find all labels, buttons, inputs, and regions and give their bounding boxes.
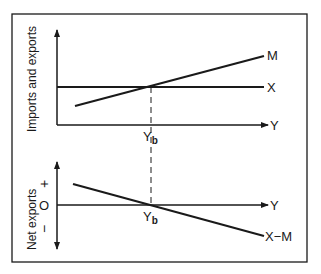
zero-label: O [39,198,49,213]
plus-sign-label: + [36,180,52,188]
imports-line-label: M [267,48,278,63]
bottom-y-axis-label: Net exports [25,189,39,250]
top-panel: Y Imports and exports X M Yb [25,26,279,146]
bottom-x-axis-label: Y [270,198,279,213]
minus-sign-label: − [36,225,52,233]
bottom-panel: Y Net exports + O − X−M Yb [25,162,292,250]
top-x-axis-label: Y [270,118,279,133]
imports-line [75,56,264,106]
top-y-axis-label: Imports and exports [25,26,39,132]
exports-line-label: X [267,80,276,95]
trade-balance-diagram: Y Imports and exports X M Yb Y Net expor… [0,0,321,274]
bottom-yb-label: Yb [143,209,158,226]
net-exports-line [73,184,264,236]
net-exports-line-label: X−M [265,229,292,244]
top-yb-label: Yb [143,129,158,146]
